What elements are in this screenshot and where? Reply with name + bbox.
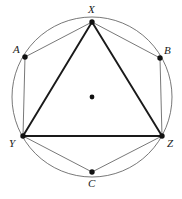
point-dot-C [89,169,94,174]
chord-YC [23,136,92,172]
point-label-X: X [88,4,95,15]
triangle-XYZ [23,22,162,136]
point-label-C: C [88,178,95,189]
geometry-figure: X A B Y Z C [0,0,182,199]
point-label-B: B [164,45,171,56]
chord-BZ [160,58,162,136]
point-dot-B [157,55,162,60]
point-dot-Y [20,133,25,138]
point-label-Z: Z [167,138,173,149]
point-dot-X [89,19,94,24]
chord-CZ [92,136,162,172]
point-label-Y: Y [9,138,15,149]
circle-center-dot [90,95,95,100]
point-dot-Z [159,133,164,138]
triangle-edge-XY [23,22,92,136]
point-label-A: A [13,44,20,55]
geometry-canvas [0,0,182,199]
chord-AY [23,57,25,136]
point-dot-A [22,54,27,59]
triangle-edge-XZ [92,22,162,136]
